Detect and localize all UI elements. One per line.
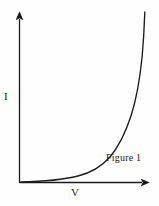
y-axis-label: I [4, 91, 8, 102]
x-axis-label: V [71, 187, 79, 198]
iv-curve-plot [0, 0, 159, 206]
figure-caption: Figure 1 [106, 152, 141, 163]
figure-container: I V Figure 1 [0, 0, 159, 206]
